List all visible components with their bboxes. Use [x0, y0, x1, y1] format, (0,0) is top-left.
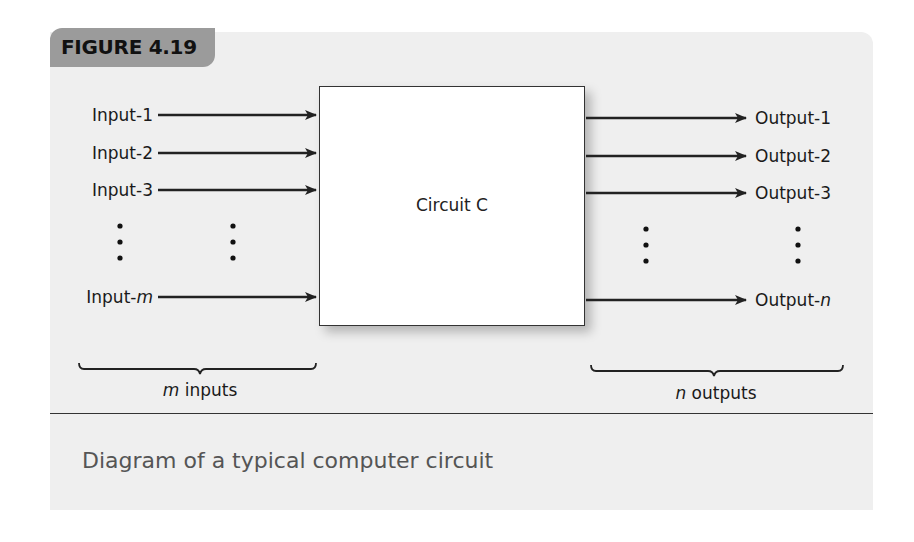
caption-separator — [50, 413, 873, 414]
inputs-brace-label: m inputs — [100, 380, 300, 400]
output-label-2: Output-2 — [755, 146, 831, 166]
outputs-brace-label: n outputs — [616, 383, 816, 403]
circuit-label: Circuit C — [320, 195, 584, 215]
circuit-box: Circuit C — [319, 86, 585, 326]
input-label-m: Input-m — [33, 287, 153, 307]
input-label-2: Input-2 — [33, 143, 153, 163]
output-label-3: Output-3 — [755, 183, 831, 203]
input-label-1: Input-1 — [33, 105, 153, 125]
output-label-1: Output-1 — [755, 108, 831, 128]
figure-label: FIGURE 4.19 — [50, 28, 215, 67]
input-label-3: Input-3 — [33, 180, 153, 200]
output-label-n: Output-n — [755, 290, 831, 310]
figure-caption: Diagram of a typical computer circuit — [82, 448, 493, 473]
